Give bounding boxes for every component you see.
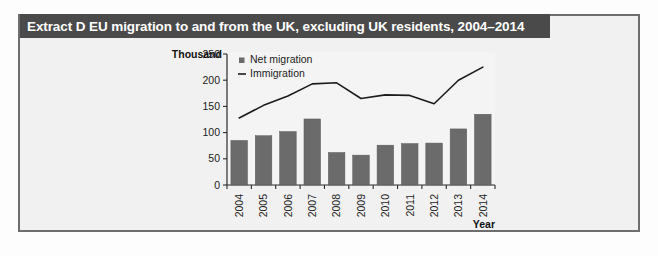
x-axis-tick-label: 2006: [282, 194, 294, 218]
chart-svg: 050100150200250 200420052006200720082009…: [18, 40, 640, 232]
y-axis-tick-label: 100: [202, 126, 220, 138]
bar-2012: [426, 143, 443, 185]
x-axis-tick-label: 2011: [404, 194, 416, 217]
bar-2004: [231, 140, 248, 185]
x-axis-tick-label: 2005: [257, 194, 269, 218]
x-axis-tick-label: 2013: [452, 194, 464, 218]
page-root: Extract D EU migration to and from the U…: [0, 0, 658, 256]
bar-2008: [328, 153, 345, 185]
x-axis-tick-label: 2014: [477, 194, 489, 218]
bar-2009: [353, 155, 370, 185]
y-axis-tick-label: 50: [208, 152, 220, 164]
bar-2010: [377, 145, 394, 185]
bar-2005: [255, 136, 272, 185]
x-axis-tick-label: 2010: [379, 194, 391, 218]
extract-header: Extract D EU migration to and from the U…: [20, 14, 550, 38]
extract-title: Extract D EU migration to and from the U…: [27, 19, 524, 34]
x-axis-tick-label: 2012: [428, 194, 440, 218]
x-axis-group: 2004200520062007200820092010201120122013…: [227, 185, 495, 217]
x-axis-tick-label: 2008: [330, 194, 342, 218]
x-axis-tick-label: 2004: [233, 194, 245, 218]
legend-marker-net-migration: [239, 58, 245, 64]
bar-2014: [475, 114, 492, 185]
bar-2006: [280, 132, 297, 185]
y-axis-tick-label: 200: [202, 74, 220, 86]
bar-2011: [401, 144, 418, 185]
x-axis-tick-label: 2007: [306, 194, 318, 218]
y-axis-group: 050100150200250: [202, 48, 227, 191]
bar-2013: [450, 129, 467, 185]
x-axis-tick-label: 2009: [355, 194, 367, 218]
bar-2007: [304, 119, 321, 185]
legend-label-net-migration: Net migration: [250, 53, 313, 65]
migration-chart: 050100150200250 200420052006200720082009…: [18, 40, 640, 232]
y-axis-tick-label: 150: [202, 100, 220, 112]
y-axis-tick-label: 0: [214, 179, 220, 191]
y-axis-title: Thousand: [172, 48, 222, 60]
x-axis-title: Year: [473, 218, 495, 230]
legend-label-immigration: Immigration: [250, 67, 305, 79]
